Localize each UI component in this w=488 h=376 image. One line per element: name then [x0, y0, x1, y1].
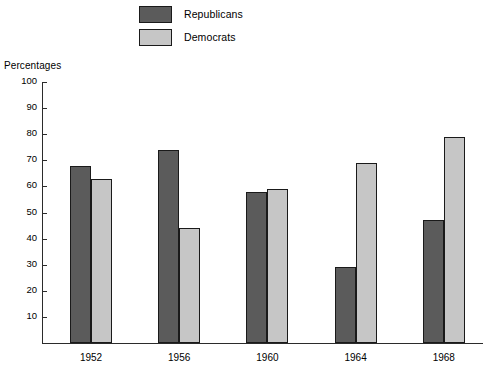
- legend-swatch-democrats: [139, 29, 172, 46]
- x-axis-label-1956: 1956: [168, 353, 190, 363]
- y-tick-100: 100: [42, 82, 47, 83]
- y-tick-50: 50: [42, 213, 47, 214]
- y-tick-label-50: 50: [15, 207, 37, 217]
- x-axis-label-1960: 1960: [256, 353, 278, 363]
- y-tick-60: 60: [42, 186, 47, 187]
- y-tick-label-30: 30: [15, 259, 37, 269]
- y-tick-label-70: 70: [15, 154, 37, 164]
- chart-legend: Republicans Democrats: [139, 4, 339, 50]
- legend-label-republicans: Republicans: [184, 9, 243, 20]
- x-axis-label-1952: 1952: [80, 353, 102, 363]
- legend-swatch-republicans: [139, 6, 172, 23]
- legend-item-republicans: Republicans: [139, 4, 339, 24]
- y-tick-label-20: 20: [15, 285, 37, 295]
- y-tick-90: 90: [42, 108, 47, 109]
- bar-democrats-1952: [91, 179, 112, 343]
- y-tick-70: 70: [42, 160, 47, 161]
- bar-republicans-1964: [335, 267, 356, 343]
- x-axis-line: [42, 343, 483, 344]
- bar-republicans-1952: [70, 166, 91, 343]
- bar-democrats-1964: [356, 163, 377, 343]
- y-tick-30: 30: [42, 265, 47, 266]
- bar-republicans-1956: [158, 150, 179, 343]
- y-tick-label-60: 60: [15, 180, 37, 190]
- y-tick-label-40: 40: [15, 233, 37, 243]
- y-tick-40: 40: [42, 239, 47, 240]
- y-tick-label-100: 100: [15, 76, 37, 86]
- bar-republicans-1968: [423, 220, 444, 343]
- bar-democrats-1960: [267, 189, 288, 343]
- plot-area: 100908070605040302010 195219561960196419…: [42, 82, 483, 344]
- legend-label-democrats: Democrats: [184, 32, 236, 43]
- y-tick-label-90: 90: [15, 102, 37, 112]
- y-tick-label-80: 80: [15, 128, 37, 138]
- y-tick-80: 80: [42, 134, 47, 135]
- bar-republicans-1960: [246, 192, 267, 343]
- x-axis-label-1964: 1964: [344, 353, 366, 363]
- y-axis-title: Percentages: [4, 60, 61, 71]
- bar-democrats-1968: [444, 137, 465, 343]
- y-tick-20: 20: [42, 291, 47, 292]
- x-axis-label-1968: 1968: [433, 353, 455, 363]
- legend-item-democrats: Democrats: [139, 27, 339, 47]
- y-tick-label-10: 10: [15, 311, 37, 321]
- bar-democrats-1956: [179, 228, 200, 343]
- y-tick-10: 10: [42, 317, 47, 318]
- bar-chart: Republicans Democrats Percentages 100908…: [0, 0, 488, 376]
